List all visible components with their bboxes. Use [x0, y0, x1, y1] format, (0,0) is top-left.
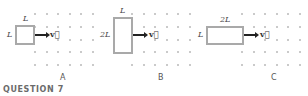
height-label-c: L	[198, 31, 203, 39]
field-dot-icon	[69, 39, 71, 41]
field-dot-icon	[46, 13, 48, 15]
field-dot-icon	[264, 26, 266, 28]
width-label-a: L	[23, 15, 28, 23]
field-dot-icon	[92, 26, 94, 28]
field-dot-icon	[189, 39, 191, 41]
velocity-arrow-c	[244, 34, 256, 36]
field-dot-icon	[92, 64, 94, 66]
caption-b: B	[158, 74, 164, 82]
field-dot-icon	[276, 39, 278, 41]
velocity-arrow-b	[133, 34, 145, 36]
panel-b: L 2L v⃗ B	[100, 0, 200, 84]
field-dot-icon	[166, 64, 168, 66]
field-dot-icon	[253, 51, 255, 53]
field-dot-icon	[143, 26, 145, 28]
height-label-a: L	[7, 31, 12, 39]
field-dot-icon	[92, 13, 94, 15]
field-dot-icon	[69, 13, 71, 15]
field-dot-icon	[57, 13, 59, 15]
field-dot-icon	[264, 13, 266, 15]
field-dot-icon	[69, 64, 71, 66]
velocity-label-b: v⃗	[149, 30, 158, 38]
velocity-arrow-a	[35, 34, 47, 36]
loop-a	[15, 25, 35, 45]
caption-a: A	[60, 74, 65, 82]
field-dot-icon	[177, 64, 179, 66]
field-dot-icon	[92, 39, 94, 41]
loop-c	[206, 26, 244, 45]
field-dot-icon	[166, 26, 168, 28]
field-dot-icon	[143, 13, 145, 15]
field-dot-icon	[253, 13, 255, 15]
field-dot-icon	[154, 26, 156, 28]
field-dot-icon	[34, 13, 36, 15]
field-dot-icon	[264, 51, 266, 53]
field-dot-icon	[189, 51, 191, 53]
field-dot-icon	[276, 64, 278, 66]
field-dot-icon	[276, 26, 278, 28]
field-dot-icon	[92, 51, 94, 53]
field-dot-icon	[276, 51, 278, 53]
field-dot-icon	[80, 26, 82, 28]
field-dot-icon	[253, 26, 255, 28]
field-dot-icon	[189, 26, 191, 28]
field-dot-icon	[57, 51, 59, 53]
field-dot-icon	[154, 51, 156, 53]
field-dot-icon	[241, 51, 243, 53]
field-dot-icon	[143, 51, 145, 53]
field-dot-icon	[154, 13, 156, 15]
velocity-label-c: v⃗	[260, 30, 269, 38]
field-dot-icon	[189, 64, 191, 66]
field-dot-icon	[57, 26, 59, 28]
field-dot-icon	[34, 51, 36, 53]
field-dot-icon	[299, 51, 301, 53]
field-dot-icon	[80, 13, 82, 15]
panel-a: L L v⃗ A	[0, 0, 100, 84]
field-dot-icon	[299, 39, 301, 41]
field-dot-icon	[299, 26, 301, 28]
field-dot-icon	[166, 39, 168, 41]
field-dot-icon	[287, 51, 289, 53]
height-label-b: 2L	[100, 31, 110, 39]
field-dot-icon	[69, 26, 71, 28]
field-dot-icon	[131, 64, 133, 66]
field-dot-icon	[177, 13, 179, 15]
field-dot-icon	[80, 51, 82, 53]
field-dot-icon	[189, 13, 191, 15]
field-dot-icon	[143, 64, 145, 66]
field-dot-icon	[177, 51, 179, 53]
field-dot-icon	[241, 13, 243, 15]
field-dot-icon	[276, 13, 278, 15]
caption-c: C	[271, 74, 277, 82]
field-dot-icon	[287, 64, 289, 66]
loop-b	[113, 17, 133, 54]
panel-c: 2L L v⃗ C	[198, 0, 308, 84]
field-dot-icon	[57, 64, 59, 66]
field-dot-icon	[287, 39, 289, 41]
question-label: QUESTION 7	[3, 85, 64, 94]
field-dot-icon	[177, 26, 179, 28]
field-dot-icon	[69, 51, 71, 53]
field-dot-icon	[131, 13, 133, 15]
field-dot-icon	[154, 64, 156, 66]
field-dot-icon	[166, 13, 168, 15]
velocity-label-a: v⃗	[50, 30, 59, 38]
width-label-c: 2L	[220, 16, 230, 24]
field-dot-icon	[34, 64, 36, 66]
field-dot-icon	[80, 64, 82, 66]
field-dot-icon	[46, 26, 48, 28]
field-dot-icon	[166, 51, 168, 53]
field-dot-icon	[177, 39, 179, 41]
field-dot-icon	[287, 13, 289, 15]
field-dot-icon	[80, 39, 82, 41]
field-dot-icon	[299, 13, 301, 15]
field-dot-icon	[241, 64, 243, 66]
field-dot-icon	[264, 64, 266, 66]
field-dot-icon	[253, 64, 255, 66]
width-label-b: L	[120, 7, 125, 15]
field-dot-icon	[46, 51, 48, 53]
field-dot-icon	[299, 64, 301, 66]
field-dot-icon	[46, 64, 48, 66]
field-dot-icon	[287, 26, 289, 28]
